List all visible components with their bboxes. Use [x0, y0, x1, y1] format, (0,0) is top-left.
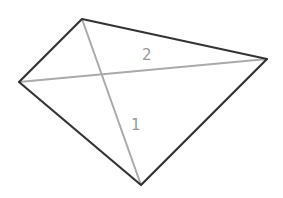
- diagonal-2-label: 2: [142, 46, 152, 64]
- diagonal-1-label: 1: [131, 116, 141, 134]
- quadrilateral-diagram: 1 2: [0, 0, 283, 198]
- quadrilateral-outline: [19, 19, 267, 185]
